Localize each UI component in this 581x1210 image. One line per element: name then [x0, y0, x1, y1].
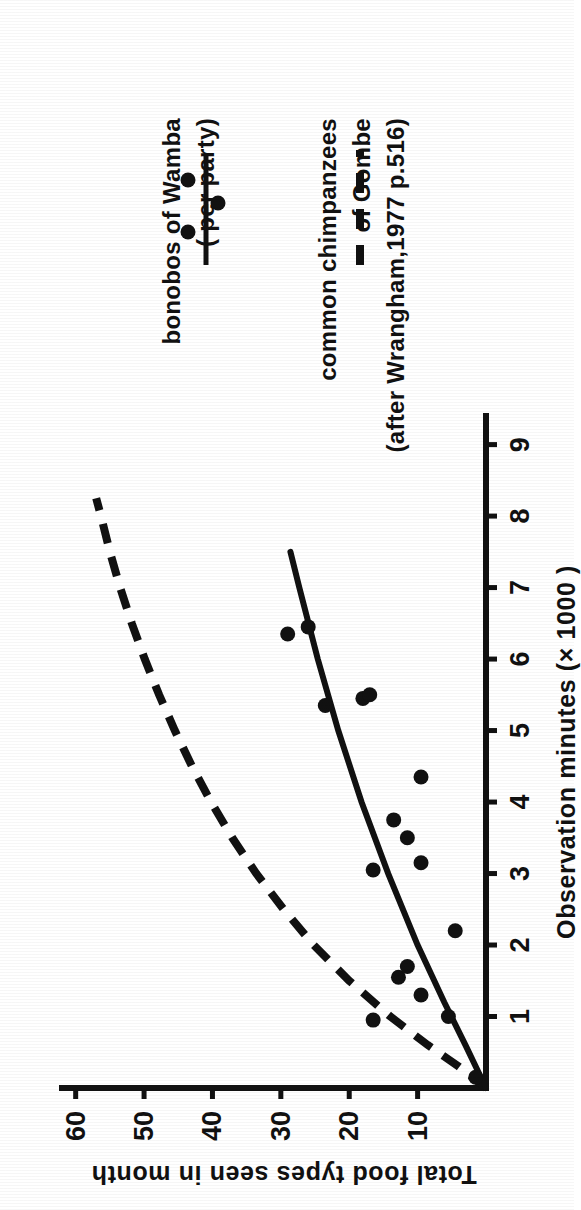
x-tick-2: 2	[505, 938, 536, 953]
legend-item-chimpanzees-line1: common chimpanzees	[314, 118, 342, 381]
x-tick-4: 4	[505, 795, 536, 810]
x-tick-8: 8	[505, 509, 536, 524]
y-tick-60: 60	[60, 1111, 91, 1141]
legend-item-chimpanzees-line3: (after Wrangham,1977 p.516)	[382, 118, 410, 452]
legend-item-bonobos-line1: bonobos of Wamba	[158, 118, 186, 345]
x-tick-5: 5	[505, 723, 536, 738]
x-tick-3: 3	[505, 866, 536, 881]
y-tick-30: 30	[265, 1111, 296, 1141]
y-tick-40: 40	[197, 1111, 228, 1141]
y-tick-10: 10	[402, 1111, 433, 1141]
x-axis-title: Observation minutes (× 1000 )	[552, 565, 581, 939]
y-tick-50: 50	[129, 1111, 160, 1141]
x-tick-1: 1	[505, 1009, 536, 1024]
x-tick-6: 6	[505, 652, 536, 667]
chimpanzee-dashed-curve	[96, 498, 486, 1088]
y-tick-20: 20	[334, 1111, 365, 1141]
x-tick-7: 7	[505, 580, 536, 595]
legend-item-bonobos-line2: ( per party)	[192, 118, 220, 247]
x-tick-9: 9	[505, 437, 536, 452]
y-axis-title: Total food types seen in month	[91, 1160, 477, 1189]
legend-item-chimpanzees-line2: of Gombe	[348, 118, 376, 232]
axis-lines	[62, 416, 497, 1099]
